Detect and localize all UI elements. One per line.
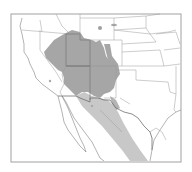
range-map [0, 0, 192, 172]
range-point-california [49, 80, 51, 82]
range-point-sonora [91, 105, 93, 107]
range-point-wyoming [98, 26, 102, 30]
